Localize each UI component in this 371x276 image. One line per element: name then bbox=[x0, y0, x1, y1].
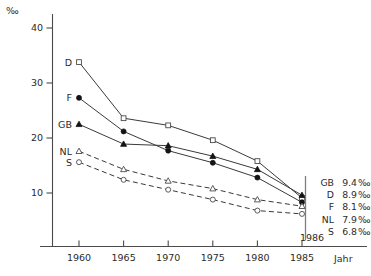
legend-unit: ‰ bbox=[358, 214, 370, 225]
data-point-filled-circle bbox=[255, 175, 260, 180]
data-point-open-square bbox=[166, 123, 171, 128]
legend-unit: ‰ bbox=[358, 201, 370, 212]
data-point-filled-circle bbox=[77, 95, 82, 100]
legend-code: F bbox=[329, 201, 334, 212]
data-point-filled-triangle bbox=[299, 192, 305, 197]
series-label-nl: NL bbox=[60, 146, 73, 157]
data-point-filled-circle bbox=[166, 148, 171, 153]
series-label-d: D bbox=[65, 57, 72, 68]
legend-value: 8.9 bbox=[342, 189, 357, 200]
data-point-open-square bbox=[210, 138, 215, 143]
data-point-open-square bbox=[121, 116, 126, 121]
x-axis-title: Jahr bbox=[333, 253, 353, 264]
series-d bbox=[77, 60, 305, 201]
legend-code: NL bbox=[322, 214, 335, 225]
legend-value: 7.9 bbox=[342, 214, 357, 225]
series-s bbox=[77, 160, 305, 217]
data-point-open-triangle bbox=[210, 186, 216, 191]
legend-value: 8.1 bbox=[342, 201, 357, 212]
series-label-s: S bbox=[66, 157, 72, 168]
legend-code: GB bbox=[320, 177, 334, 188]
y-tick-label: 10 bbox=[31, 187, 43, 198]
data-point-open-square bbox=[77, 60, 82, 65]
legend-code: S bbox=[328, 226, 334, 237]
series-label-group: DFGBNLS bbox=[58, 57, 73, 168]
data-point-open-circle bbox=[255, 208, 260, 213]
y-tick-label: 20 bbox=[31, 132, 43, 143]
data-point-filled-triangle bbox=[76, 121, 82, 126]
legend-rows: GB9.4‰D8.9‰F8.1‰NL7.9‰S6.8‰ bbox=[320, 177, 370, 237]
data-point-open-triangle bbox=[76, 148, 82, 153]
legend-unit: ‰ bbox=[358, 177, 370, 188]
legend: GB9.4‰D8.9‰F8.1‰NL7.9‰S6.8‰ bbox=[306, 176, 371, 240]
series-line-f bbox=[79, 98, 302, 203]
data-point-filled-circle bbox=[210, 160, 215, 165]
series-line-nl bbox=[79, 151, 302, 206]
legend-unit: ‰ bbox=[358, 189, 370, 200]
chart-root: ‰ 40302010 196019651970197519801985 1986… bbox=[0, 0, 371, 276]
end-year-annotation: 1986 bbox=[300, 232, 324, 243]
legend-value: 6.8 bbox=[342, 226, 357, 237]
series-line-d bbox=[79, 62, 302, 198]
series-label-f: F bbox=[67, 92, 72, 103]
data-point-open-circle bbox=[300, 211, 305, 216]
y-tick-label: 30 bbox=[31, 77, 43, 88]
axes bbox=[40, 14, 367, 247]
y-tick-group: 40302010 bbox=[31, 22, 53, 198]
x-tick-label: 1970 bbox=[156, 252, 180, 263]
plot-area bbox=[76, 60, 305, 217]
legend-unit: ‰ bbox=[358, 226, 370, 237]
x-tick-label: 1960 bbox=[67, 252, 91, 263]
legend-code: D bbox=[327, 189, 334, 200]
data-point-open-square bbox=[255, 159, 260, 164]
series-label-gb: GB bbox=[58, 119, 72, 130]
x-tick-label: 1985 bbox=[290, 252, 314, 263]
x-tick-group: 196019651970197519801985 bbox=[67, 241, 314, 264]
data-point-open-circle bbox=[210, 197, 215, 202]
x-tick-label: 1980 bbox=[245, 252, 269, 263]
x-tick-label: 1975 bbox=[201, 252, 225, 263]
data-point-filled-circle bbox=[121, 129, 126, 134]
data-point-open-circle bbox=[166, 187, 171, 192]
data-point-open-circle bbox=[121, 177, 126, 182]
x-tick-label: 1965 bbox=[112, 252, 136, 263]
y-tick-label: 40 bbox=[31, 22, 43, 33]
data-point-open-circle bbox=[77, 160, 82, 165]
line-chart: ‰ 40302010 196019651970197519801985 1986… bbox=[0, 0, 371, 276]
y-axis-unit-label: ‰ bbox=[6, 5, 19, 16]
series-f bbox=[77, 95, 305, 205]
data-point-open-triangle bbox=[121, 166, 127, 171]
legend-value: 9.4 bbox=[342, 177, 357, 188]
